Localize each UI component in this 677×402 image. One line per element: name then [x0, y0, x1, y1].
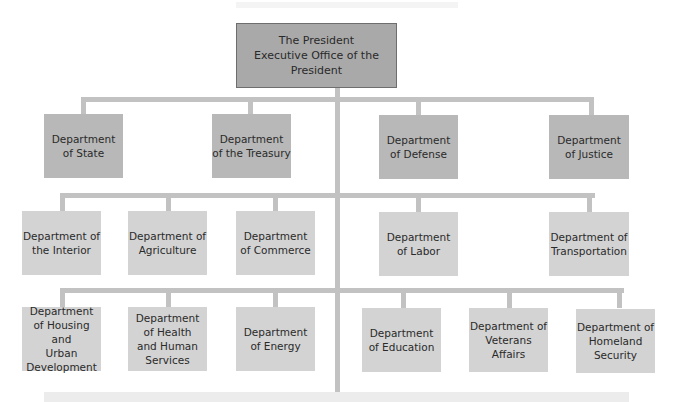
row-2-drop-commerce — [273, 193, 278, 212]
row-1-connector — [81, 97, 594, 102]
department-label: Department of Agriculture — [129, 229, 206, 257]
department-label: Department of Veterans Affairs — [470, 319, 547, 361]
department-label: Department of Justice — [557, 133, 621, 161]
row-1-drop-treasury — [248, 97, 253, 115]
cropped-header-remnant — [236, 2, 458, 8]
box-president: The President Executive Office of the Pr… — [236, 23, 397, 88]
box-department-of-health-and-human-services: Department of Health and Human Services — [128, 307, 207, 371]
row-3-drop-hhs — [166, 288, 171, 308]
row-3-drop-veterans — [507, 288, 512, 308]
trunk-line — [335, 87, 340, 392]
department-label: Department of Labor — [387, 230, 451, 258]
box-department-of-defense: Department of Defense — [379, 115, 458, 179]
row-3-connector — [60, 288, 624, 293]
department-label: Department of the Interior — [23, 229, 100, 257]
department-label: Department of Transportation — [551, 230, 628, 258]
org-chart: The President Executive Office of the Pr… — [0, 0, 677, 402]
bottom-agencies-bar — [44, 392, 629, 402]
box-department-of-veterans-affairs: Department of Veterans Affairs — [469, 308, 548, 372]
department-label: Department of Homeland Security — [577, 320, 654, 362]
department-label: Department of Defense — [387, 133, 451, 161]
row-3-drop-energy — [273, 288, 278, 308]
row-2-drop-transportation — [587, 193, 592, 212]
row-2-drop-labor — [416, 193, 421, 212]
box-department-of-housing-and-urban-development: Department of Housing and Urban Developm… — [22, 307, 101, 371]
row-3-drop-education — [401, 288, 406, 308]
row-2-connector — [60, 193, 595, 198]
president-label: The President Executive Office of the Pr… — [237, 33, 396, 78]
box-department-of-labor: Department of Labor — [379, 212, 458, 276]
box-department-of-justice: Department of Justice — [549, 115, 629, 179]
department-label: Department of Health and Human Services — [136, 311, 200, 367]
department-label: Department of Energy — [244, 325, 308, 353]
box-department-of-transportation: Department of Transportation — [549, 212, 629, 276]
department-label: Department of Housing and Urban Developm… — [22, 304, 101, 374]
department-label: Department of State — [52, 132, 116, 160]
row-3-drop-homeland — [617, 288, 622, 308]
row-1-drop-defense — [416, 97, 421, 115]
department-label: Department of Education — [369, 326, 435, 354]
row-1-drop-justice — [589, 97, 594, 115]
box-department-of-agriculture: Department of Agriculture — [128, 211, 207, 275]
box-department-of-energy: Department of Energy — [236, 307, 315, 371]
box-department-of-the-interior: Department of the Interior — [22, 211, 101, 275]
row-2-drop-agriculture — [166, 193, 171, 212]
department-label: Department of Commerce — [240, 229, 310, 257]
department-label: Department of the Treasury — [212, 132, 291, 160]
row-2-drop-interior — [60, 193, 65, 212]
box-department-of-homeland-security: Department of Homeland Security — [576, 309, 655, 373]
row-1-drop-state — [81, 97, 86, 115]
box-department-of-the-treasury: Department of the Treasury — [212, 114, 291, 178]
box-department-of-state: Department of State — [44, 114, 123, 178]
box-department-of-education: Department of Education — [362, 308, 441, 372]
box-department-of-commerce: Department of Commerce — [236, 211, 315, 275]
